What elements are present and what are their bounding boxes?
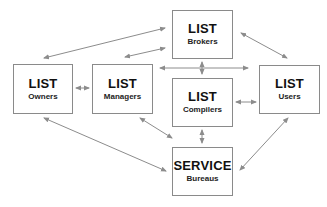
node-subtitle: Bureaus — [186, 173, 218, 184]
node-subtitle: Managers — [104, 91, 141, 102]
node-list-users: LIST Users — [259, 65, 320, 114]
node-list-owners: LIST Owners — [13, 64, 73, 114]
arrow-owners-bureaus — [44, 118, 166, 171]
node-title: LIST — [29, 77, 58, 91]
arrow-owners-brokers — [44, 28, 165, 58]
node-title: SERVICE — [173, 159, 231, 173]
node-list-compilers: LIST Compilers — [172, 78, 233, 127]
arrow-managers-bureaus — [140, 118, 172, 138]
node-title: LIST — [108, 77, 137, 91]
arrow-managers-brokers — [125, 48, 165, 57]
node-subtitle: Owners — [28, 91, 57, 102]
node-subtitle: Compilers — [183, 104, 222, 115]
node-title: LIST — [275, 77, 304, 91]
node-subtitle: Brokers — [187, 36, 217, 47]
node-title: LIST — [188, 22, 217, 36]
node-list-managers: LIST Managers — [92, 64, 153, 114]
arrow-brokers-users — [241, 33, 287, 58]
arrow-users-bureaus — [240, 118, 288, 170]
node-list-brokers: LIST Brokers — [172, 10, 233, 59]
node-service-bureaus: SERVICE Bureaus — [172, 147, 233, 196]
node-title: LIST — [188, 90, 217, 104]
node-subtitle: Users — [278, 91, 300, 102]
